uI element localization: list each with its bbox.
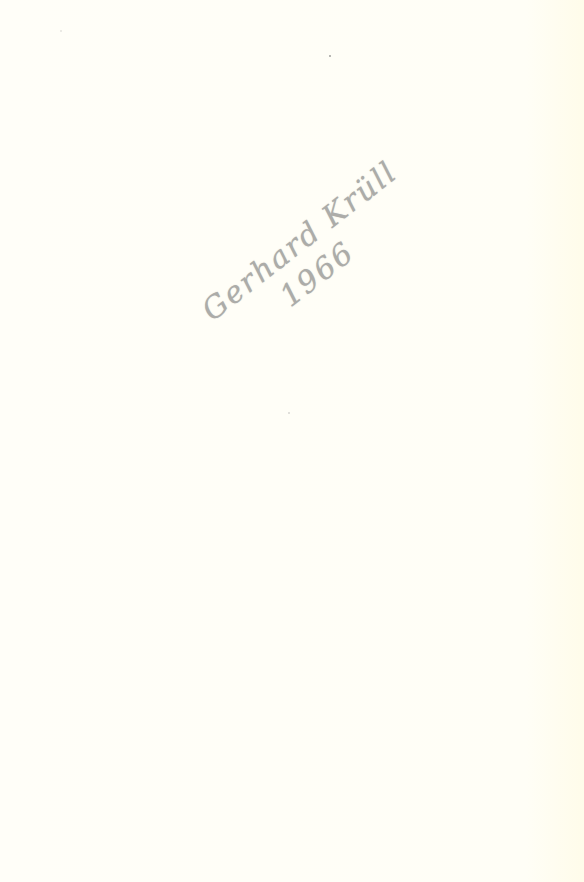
scan-speck	[60, 30, 62, 32]
scan-speck	[329, 55, 331, 57]
document-page: Gerhard Krüll 1966	[0, 0, 584, 882]
scan-speck	[288, 412, 290, 414]
handwritten-note: Gerhard Krüll 1966	[195, 154, 427, 357]
